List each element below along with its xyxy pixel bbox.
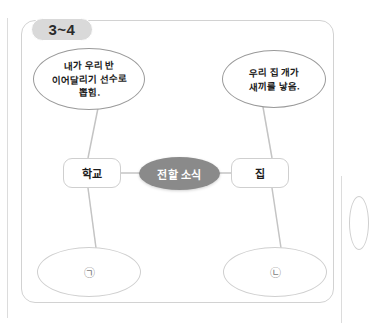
answer-blank-na[interactable]: ㉡: [223, 247, 327, 297]
speech-bubble-school: 내가 우리 반 이어달리기 선수로 뽑힘.: [33, 48, 145, 110]
bubble-line: 새끼를 낳음.: [249, 78, 300, 93]
category-box-home: 집: [231, 158, 289, 188]
bubble-line: 이어달리기 선수로: [52, 71, 127, 86]
speech-bubble-home: 우리 집 개가 새끼를 낳음.: [222, 50, 326, 108]
question-range-badge: 3~4: [31, 18, 93, 41]
answer-blank-ga[interactable]: ㉠: [37, 247, 141, 297]
bubble-line: 뽑힘.: [52, 85, 127, 100]
category-box-school: 학교: [63, 158, 121, 188]
bubble-line: 우리 집 개가: [249, 65, 300, 80]
hub-label-news-to-share: 전할 소식: [139, 157, 220, 190]
